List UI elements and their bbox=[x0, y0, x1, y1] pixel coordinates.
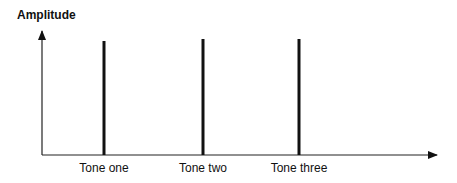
tick-label-tone-one: Tone one bbox=[79, 161, 128, 175]
tick-label-tone-three: Tone three bbox=[271, 161, 328, 175]
spectrum-diagram bbox=[0, 0, 457, 183]
y-axis-label: Amplitude bbox=[17, 8, 76, 22]
tick-label-tone-two: Tone two bbox=[179, 161, 227, 175]
